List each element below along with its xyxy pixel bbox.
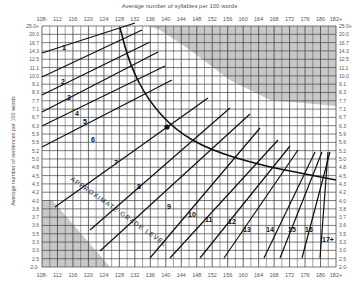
y-axis-right-ticks: 25.0+20.016.714.312.511.110.09.18.37.77.…	[339, 23, 352, 270]
svg-text:164: 164	[254, 16, 263, 22]
svg-text:160: 160	[239, 272, 248, 278]
svg-text:6.3: 6.3	[339, 123, 346, 129]
svg-text:5.9: 5.9	[32, 131, 39, 137]
svg-text:6.7: 6.7	[32, 114, 39, 120]
svg-text:128: 128	[115, 16, 124, 22]
grade-label: 12	[228, 218, 236, 225]
svg-text:4.8: 4.8	[32, 164, 39, 170]
svg-text:9.1: 9.1	[339, 81, 346, 87]
sample-point	[164, 124, 169, 129]
svg-text:4.0: 4.0	[32, 198, 39, 204]
svg-text:2.5: 2.5	[339, 256, 346, 262]
svg-text:2.0-: 2.0-	[30, 264, 39, 270]
svg-text:16.7: 16.7	[29, 40, 39, 46]
svg-text:2.5: 2.5	[32, 256, 39, 262]
svg-text:124: 124	[99, 272, 108, 278]
svg-text:3.5: 3.5	[339, 231, 346, 237]
svg-text:140: 140	[161, 272, 170, 278]
svg-text:7.7: 7.7	[339, 98, 346, 104]
svg-text:120: 120	[84, 272, 93, 278]
grade-label: 13	[243, 226, 251, 233]
svg-text:3.3: 3.3	[339, 239, 346, 245]
svg-text:176: 176	[300, 272, 309, 278]
svg-text:25.0+: 25.0+	[26, 23, 39, 29]
svg-text:112: 112	[53, 272, 62, 278]
svg-text:20.0: 20.0	[29, 31, 39, 37]
svg-text:8.3: 8.3	[32, 89, 39, 95]
svg-text:148: 148	[192, 16, 201, 22]
grade-label: 8	[137, 183, 141, 190]
svg-text:4.0: 4.0	[339, 198, 346, 204]
grade-label: 1	[62, 44, 66, 51]
svg-text:112: 112	[53, 16, 62, 22]
grade-label: 3	[67, 94, 71, 101]
svg-text:3.6: 3.6	[339, 222, 346, 228]
svg-text:6.7: 6.7	[339, 114, 346, 120]
svg-text:2.0-: 2.0-	[339, 264, 348, 270]
svg-text:182+: 182+	[330, 16, 342, 22]
svg-text:3.8: 3.8	[32, 206, 39, 212]
svg-text:144: 144	[177, 16, 186, 22]
svg-text:4.8: 4.8	[339, 164, 346, 170]
svg-text:152: 152	[208, 272, 217, 278]
svg-text:7.7: 7.7	[32, 98, 39, 104]
grade-label: 5	[83, 118, 87, 125]
svg-text:180: 180	[316, 272, 325, 278]
svg-text:168: 168	[270, 272, 279, 278]
svg-text:156: 156	[223, 16, 232, 22]
svg-text:108-: 108-	[36, 272, 47, 278]
svg-text:176: 176	[300, 16, 309, 22]
grade-line	[42, 52, 158, 112]
svg-text:116: 116	[69, 272, 78, 278]
grade-label: 9	[167, 203, 171, 210]
fry-readability-graph: 108-112116120124128132136140144148152156…	[0, 0, 359, 284]
grade-label: 10	[188, 211, 196, 218]
svg-text:3.8: 3.8	[339, 206, 346, 212]
svg-text:10.0: 10.0	[29, 73, 39, 79]
svg-text:4.5: 4.5	[32, 173, 39, 179]
svg-text:136: 136	[146, 16, 155, 22]
x-axis-top-ticks: 108-112116120124128132136140144148152156…	[36, 16, 342, 22]
svg-text:5.0: 5.0	[32, 156, 39, 162]
svg-text:16.7: 16.7	[339, 40, 349, 46]
svg-text:5.6: 5.6	[32, 139, 39, 145]
svg-text:152: 152	[208, 16, 217, 22]
svg-text:132: 132	[130, 272, 139, 278]
svg-text:4.5: 4.5	[339, 173, 346, 179]
grade-line	[170, 140, 278, 258]
svg-text:140: 140	[161, 16, 170, 22]
svg-text:182+: 182+	[330, 272, 342, 278]
svg-text:144: 144	[177, 272, 186, 278]
svg-text:3.6: 3.6	[32, 222, 39, 228]
svg-text:120: 120	[84, 16, 93, 22]
svg-text:116: 116	[69, 16, 78, 22]
svg-text:4.3: 4.3	[32, 181, 39, 187]
svg-text:136: 136	[146, 272, 155, 278]
svg-text:4.2: 4.2	[339, 189, 346, 195]
svg-text:160: 160	[239, 16, 248, 22]
y-axis-left-ticks: 25.0+20.016.714.312.511.110.09.18.37.77.…	[26, 23, 39, 270]
x-axis-bottom-ticks: 108-112116120124128132136140144148152156…	[36, 272, 342, 278]
svg-text:5.2: 5.2	[32, 148, 39, 154]
svg-text:5.6: 5.6	[339, 139, 346, 145]
svg-text:12.5: 12.5	[339, 56, 349, 62]
svg-text:128: 128	[115, 272, 124, 278]
grade-label: 17+	[322, 236, 334, 243]
svg-text:156: 156	[223, 272, 232, 278]
svg-text:7.1: 7.1	[32, 106, 39, 112]
svg-text:14.3: 14.3	[29, 48, 39, 54]
svg-text:5.2: 5.2	[339, 148, 346, 154]
grade-label: 16	[305, 226, 313, 233]
grade-line	[200, 146, 290, 258]
svg-text:168: 168	[270, 16, 279, 22]
svg-text:164: 164	[254, 272, 263, 278]
svg-text:3.5: 3.5	[32, 231, 39, 237]
invalid-top-right	[148, 26, 336, 106]
grade-label: 2	[61, 78, 65, 85]
grade-label: 7	[114, 159, 118, 166]
svg-text:14.3: 14.3	[339, 48, 349, 54]
svg-text:172: 172	[285, 272, 294, 278]
svg-text:12.5: 12.5	[29, 56, 39, 62]
svg-text:7.1: 7.1	[339, 106, 346, 112]
grade-label: 11	[205, 216, 213, 223]
